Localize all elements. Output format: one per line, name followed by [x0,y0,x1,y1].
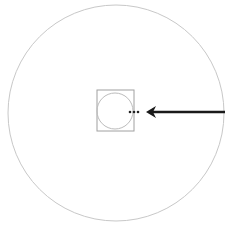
arrow [146,106,225,118]
center-square [97,90,134,131]
inner-circle [97,93,133,129]
dot [137,111,140,114]
dots-group [129,111,140,114]
dot [133,111,136,114]
diagram-canvas [0,0,225,227]
dot [129,111,132,114]
